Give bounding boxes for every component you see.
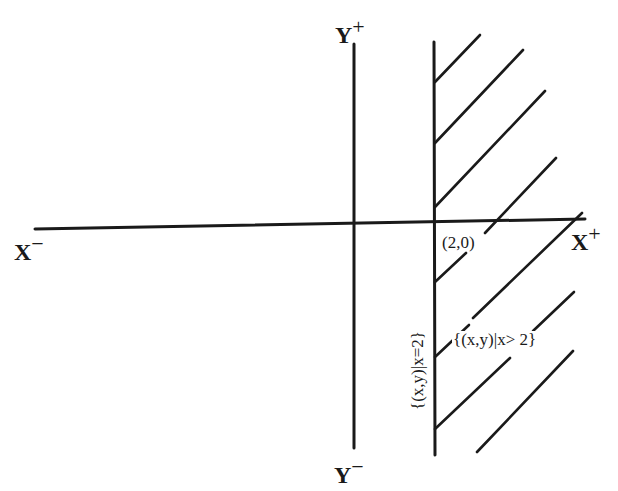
x-neg-sign: −: [31, 231, 43, 256]
point-label: (2,0): [442, 234, 475, 251]
diagram-canvas: X− X+ Y+ Y− (2,0) {(x,y)|x=2} {(x,y)|x> …: [0, 0, 618, 491]
x-pos-letter: X: [571, 229, 588, 255]
y-pos-letter: Y: [335, 22, 352, 48]
x-axis: [35, 219, 585, 229]
boundary-line-label: {(x,y)|x=2}: [409, 331, 426, 410]
diagram-graphics: [0, 0, 618, 491]
region-label: {(x,y)|x> 2}: [452, 331, 537, 348]
boundary-line-x-equals-2: [434, 42, 435, 455]
x-negative-label: X−: [14, 233, 44, 264]
y-neg-letter: Y: [334, 462, 351, 488]
x-neg-letter: X: [14, 239, 31, 265]
x-positive-label: X+: [571, 223, 601, 254]
y-neg-sign: −: [351, 454, 363, 479]
y-pos-sign: +: [352, 14, 364, 39]
x-pos-sign: +: [588, 221, 600, 246]
y-negative-label: Y−: [334, 456, 364, 487]
y-positive-label: Y+: [335, 16, 365, 47]
